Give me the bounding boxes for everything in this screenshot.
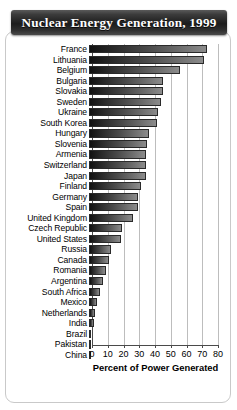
bar-row: Switzerland [0,160,237,171]
bar-track [89,202,234,213]
bar-category-label: Slovakia [0,86,89,97]
bar-track [89,139,234,150]
bar-category-label: South Africa [0,287,89,298]
bar [89,277,103,285]
bar [89,266,106,274]
bar [89,224,122,232]
x-tick [139,345,140,348]
bar-track [89,287,234,298]
bar [89,182,141,190]
x-tick-label: 20 [118,349,128,359]
bar-category-label: Bulgaria [0,76,89,87]
bar-track [89,181,234,192]
x-tick [187,345,188,348]
bar-category-label: Czech Republic [0,223,89,234]
bar-category-label: Hungary [0,128,89,139]
bar-category-label: Sweden [0,97,89,108]
bar-track [89,76,234,87]
bar-row: Germany [0,192,237,203]
bar-category-label: Netherlands [0,308,89,319]
bar-row: Bulgaria [0,76,237,87]
bar-category-label: Belgium [0,65,89,76]
bar-rows: FranceLithuaniaBelgiumBulgariaSlovakiaSw… [0,44,237,360]
bar-track [89,86,234,97]
bar-category-label: Finland [0,181,89,192]
x-tick-label: 60 [181,349,191,359]
bar-category-label: Ukraine [0,107,89,118]
bar-row: United States [0,234,237,245]
bar-category-label: China [0,350,89,361]
bar [89,77,163,85]
chart-title-banner: Nuclear Energy Generation, 1999 [11,10,227,35]
bar-track [89,171,234,182]
bar-row: Spain [0,202,237,213]
bar [89,119,157,127]
bar-track [89,118,234,129]
bar [89,129,149,137]
x-tick [218,345,219,348]
bar-category-label: Pakistan [0,339,89,350]
bar-category-label: United Kingdom [0,213,89,224]
bar-category-label: Japan [0,171,89,182]
bar-row: Argentina [0,276,237,287]
bar-track [89,97,234,108]
x-tick [202,345,203,348]
bar-track [89,149,234,160]
bar-category-label: Armenia [0,149,89,160]
bar-track [89,276,234,287]
bar-track [89,318,234,329]
bar [89,172,146,180]
x-tick [92,345,93,348]
bar-category-label: Russia [0,244,89,255]
bar [89,161,146,169]
bar-category-label: Spain [0,202,89,213]
bar [89,150,146,158]
bar [89,193,138,201]
bar [89,319,94,327]
bar-track [89,128,234,139]
bar-category-label: India [0,318,89,329]
bar-row: Armenia [0,149,237,160]
bar [89,66,180,74]
bar-track [89,297,234,308]
bar-category-label: Canada [0,255,89,266]
bar-row: Lithuania [0,55,237,66]
bar [89,56,204,64]
bar-track [89,223,234,234]
bar-row: Romania [0,265,237,276]
x-tick [171,345,172,348]
x-tick-label: 0 [89,349,94,359]
bar-category-label: United States [0,234,89,245]
x-tick [155,345,156,348]
bar-row: South Africa [0,287,237,298]
bar [89,245,111,253]
bar-category-label: Lithuania [0,55,89,66]
bar [89,288,100,296]
bar [89,214,133,222]
bar-track [89,55,234,66]
bar-category-label: Slovenia [0,139,89,150]
x-tick-label: 40 [150,349,160,359]
bar-row: Hungary [0,128,237,139]
bar-category-label: Switzerland [0,160,89,171]
bar-category-label: Argentina [0,276,89,287]
x-tick-label: 70 [197,349,207,359]
bar-chart: FranceLithuaniaBelgiumBulgariaSlovakiaSw… [0,38,237,410]
bar [89,256,109,264]
bar-row: Czech Republic [0,223,237,234]
bar-row: Sweden [0,97,237,108]
bar-category-label: Brazil [0,329,89,340]
bar-track [89,329,234,340]
bar-row: Canada [0,255,237,266]
bar-row: Russia [0,244,237,255]
bar-track [89,44,234,55]
bar-category-label: Mexico [0,297,89,308]
bar-track [89,244,234,255]
bar-track [89,308,234,319]
bar-track [89,255,234,266]
bar-row: South Korea [0,118,237,129]
bar [89,330,91,338]
bar [89,203,138,211]
bar-track [89,160,234,171]
bar-category-label: France [0,44,89,55]
